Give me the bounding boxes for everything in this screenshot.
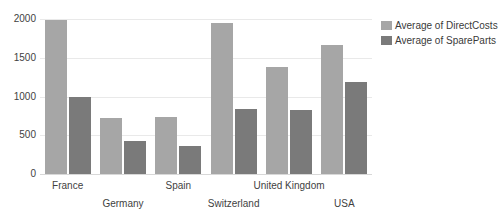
bar [235,109,257,174]
x-axis-category-label: France [12,180,123,191]
bar [345,82,367,174]
bar [211,23,233,175]
bar [321,45,343,174]
bar [45,20,67,174]
legend-item-label: Average of DirectCosts [395,20,498,31]
legend-item-label: Average of SpareParts [395,35,496,46]
bar-group [266,19,312,174]
x-axis-category-label: United Kingdom [234,180,345,191]
x-axis-category-label: Germany [68,198,179,209]
bar [69,97,91,175]
bar [155,117,177,174]
bar-group [155,19,201,174]
plot-area [40,19,372,174]
x-axis-category-label: USA [289,198,400,209]
y-axis-tick-label: 2000 [2,14,36,24]
y-axis-tick-label: 0 [2,169,36,179]
legend-swatch-icon [381,36,392,45]
x-axis-category-label: Spain [123,180,234,191]
bar-group [211,19,257,174]
x-axis-category-label: Switzerland [178,198,289,209]
chart-legend: Average of DirectCostsAverage of SparePa… [381,19,493,49]
bar-group [321,19,367,174]
x-axis: FranceGermanySpainSwitzerlandUnited King… [40,174,372,218]
bar [290,110,312,174]
legend-swatch-icon [381,21,392,30]
bar-group [100,19,146,174]
bar [124,141,146,174]
bar [100,118,122,174]
y-axis-tick-label: 1500 [2,53,36,63]
bar [179,146,201,174]
bar-group [45,19,91,174]
y-axis-tick-label: 500 [2,130,36,140]
legend-item[interactable]: Average of DirectCosts [381,19,493,32]
y-axis-tick-label: 1000 [2,92,36,102]
bar [266,67,288,174]
legend-item[interactable]: Average of SpareParts [381,34,493,47]
